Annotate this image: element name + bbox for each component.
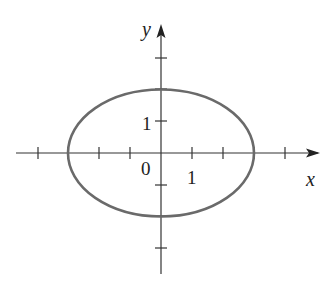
y-unit-label: 1 (142, 113, 152, 134)
x-axis-label: x (305, 168, 315, 190)
x-unit-label: 1 (187, 167, 197, 188)
y-axis-label: y (140, 18, 151, 41)
origin-label: 0 (141, 158, 151, 179)
ellipse-diagram: y x 0 1 1 (0, 0, 333, 282)
